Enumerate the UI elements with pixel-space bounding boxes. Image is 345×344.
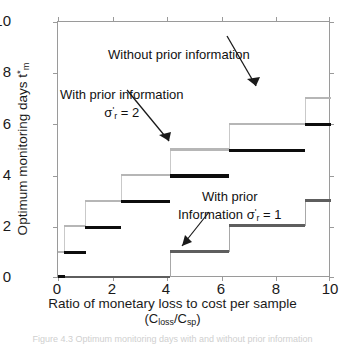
step-riser bbox=[170, 251, 171, 277]
y-axis-tick bbox=[329, 176, 334, 177]
annotation-prior-sigma2-value: = 2 bbox=[117, 104, 139, 119]
y-axis-title-subscript: m bbox=[21, 63, 31, 71]
annotation-prior-sigma1-line1: With prior bbox=[178, 190, 281, 205]
series-without-prior-step bbox=[85, 200, 121, 202]
y-axis-tick bbox=[329, 227, 334, 228]
annotation-prior-sigma1: With prior Information σ'r = 1 bbox=[178, 190, 281, 225]
x-axis-title-line1: Ratio of monetary loss to cost per sampl… bbox=[48, 296, 296, 311]
annotation-prior-sigma2: With prior information σ'r = 2 bbox=[60, 88, 184, 123]
x-tick-label: 8 bbox=[261, 281, 291, 296]
series-prior-sigma1-step bbox=[305, 199, 331, 202]
series-without-prior-step bbox=[229, 123, 306, 125]
x-axis-tick bbox=[329, 17, 330, 22]
y-tick-label: 6 bbox=[0, 116, 11, 131]
series-prior-sigma2-step bbox=[121, 200, 171, 203]
x-axis-title-sub-sp: sp bbox=[187, 317, 196, 327]
x-axis-title: Ratio of monetary loss to cost per sampl… bbox=[0, 296, 345, 330]
y-axis-tick bbox=[329, 22, 334, 23]
annotation-prior-sigma1-value: = 1 bbox=[259, 206, 281, 221]
x-axis-tick bbox=[222, 17, 223, 22]
annotation-without-prior: Without prior information bbox=[108, 48, 250, 63]
annotation-prior-sigma1-line2: Information σ'r = 1 bbox=[178, 205, 281, 225]
x-axis-tick bbox=[222, 276, 223, 281]
x-tick-label: 10 bbox=[315, 281, 345, 296]
y-axis-tick bbox=[53, 124, 58, 125]
y-axis-tick bbox=[53, 176, 58, 177]
x-tick-label: 6 bbox=[206, 281, 236, 296]
x-axis-title-close-paren: ) bbox=[196, 311, 200, 326]
series-prior-sigma1-origin-marker bbox=[58, 275, 65, 278]
step-riser bbox=[170, 150, 171, 176]
series-prior-sigma2-step bbox=[64, 251, 86, 254]
y-axis-title-superscript: * bbox=[14, 70, 25, 74]
x-axis-tick bbox=[58, 17, 59, 22]
step-riser bbox=[305, 200, 306, 226]
x-tick-label: 4 bbox=[151, 281, 181, 296]
step-riser bbox=[64, 227, 65, 253]
x-tick-label: 0 bbox=[42, 281, 72, 296]
y-tick-label: 4 bbox=[0, 167, 11, 182]
series-prior-sigma2-step bbox=[229, 149, 306, 152]
series-prior-sigma2-step bbox=[170, 174, 229, 177]
x-axis-title-line2: (Closs/Csp) bbox=[0, 311, 345, 330]
step-riser bbox=[229, 124, 230, 150]
series-without-prior-step bbox=[121, 174, 171, 176]
x-tick-label: 2 bbox=[97, 281, 127, 296]
series-without-prior-step bbox=[305, 97, 331, 99]
step-riser bbox=[305, 99, 306, 125]
x-axis-title-sub-loss: loss bbox=[158, 317, 174, 327]
annotation-without-prior-text: Without prior information bbox=[108, 47, 250, 62]
step-riser bbox=[229, 226, 230, 252]
series-without-prior-step bbox=[64, 225, 86, 227]
y-axis-title-text: Optimum monitoring days t bbox=[15, 74, 30, 235]
x-axis-tick bbox=[276, 276, 277, 281]
leader-arrow-without-prior bbox=[225, 34, 280, 100]
y-tick-label: 2 bbox=[0, 218, 11, 233]
y-axis-title: Optimum monitoring days t*m bbox=[14, 21, 32, 277]
step-riser bbox=[121, 176, 122, 202]
series-prior-sigma2-step bbox=[305, 123, 331, 126]
step-riser bbox=[85, 201, 86, 227]
y-axis-tick bbox=[329, 73, 334, 74]
y-axis-tick bbox=[53, 22, 58, 23]
series-prior-sigma1-step bbox=[58, 276, 170, 279]
annotation-prior-sigma2-line2: σ'r = 2 bbox=[60, 103, 184, 123]
y-tick-label: 8 bbox=[0, 64, 11, 79]
x-axis-title-open-paren: (C bbox=[144, 311, 158, 326]
series-prior-sigma2-step bbox=[85, 226, 121, 229]
annotation-prior-sigma1-word: Information bbox=[178, 206, 247, 221]
x-axis-tick bbox=[276, 17, 277, 22]
y-tick-label: 0 bbox=[0, 269, 11, 284]
x-axis-tick bbox=[329, 276, 330, 281]
x-axis-tick bbox=[113, 17, 114, 22]
annotation-prior-sigma2-line1: With prior information bbox=[60, 88, 184, 103]
y-axis-tick bbox=[53, 227, 58, 228]
y-tick-label: 10 bbox=[0, 13, 11, 28]
x-axis-tick bbox=[167, 17, 168, 22]
y-axis-tick bbox=[53, 73, 58, 74]
figure-caption: Figure 4.3 Optimum monitoring days with … bbox=[0, 334, 345, 344]
sigma-symbol: σ bbox=[247, 206, 255, 221]
x-axis-title-slash: /C bbox=[174, 311, 187, 326]
